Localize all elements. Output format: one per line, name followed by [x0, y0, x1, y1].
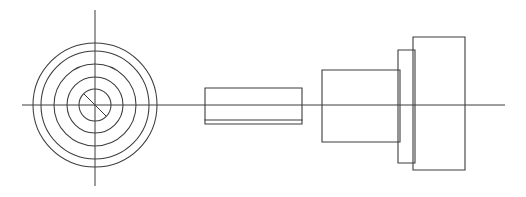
drawing-svg-root	[0, 0, 526, 197]
main-body-outline	[322, 70, 400, 142]
thin-shaft-outline	[205, 88, 302, 124]
end-disc-outline	[413, 37, 465, 170]
end-view-group	[33, 10, 157, 186]
side-view-group	[205, 37, 465, 170]
technical-drawing-canvas	[0, 0, 526, 197]
